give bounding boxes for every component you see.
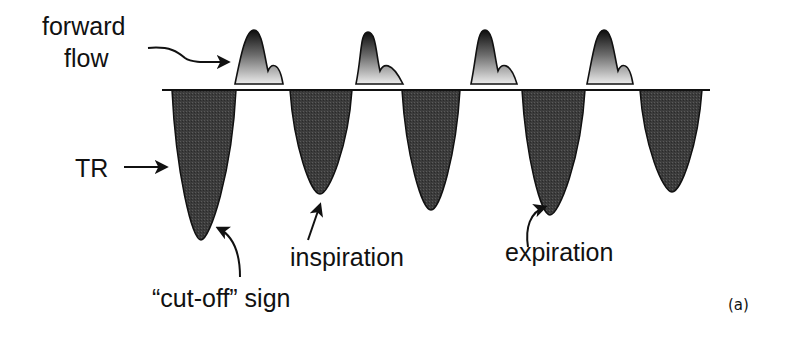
tr-trough-1 [172,90,236,240]
inspiration-label: inspiration [290,245,404,270]
forward-flow-peak-4 [587,30,633,84]
inspiration-arrow-icon [308,205,320,240]
forward-flow-label-line2: flow [64,46,108,71]
tr-label: TR [75,156,108,181]
forward-flow-peaks [235,30,633,84]
forward-flow-peak-1 [235,30,283,84]
forward-flow-arrow-icon [148,48,228,62]
panel-label: (a) [728,298,749,313]
forward-flow-label-line1: forward [42,14,125,39]
tr-trough-3 [402,90,460,210]
tr-trough-2 [290,90,352,194]
cut-off-arrow-icon [218,228,240,277]
tr-trough-4 [522,90,585,215]
forward-flow-peak-2 [356,32,403,84]
tr-troughs [172,90,702,240]
forward-flow-peak-3 [471,30,517,84]
tr-trough-5 [640,90,702,192]
cut-off-sign-label: “cut-off” sign [152,286,290,311]
tr-flow-diagram [0,0,787,340]
expiration-label: expiration [505,240,613,265]
